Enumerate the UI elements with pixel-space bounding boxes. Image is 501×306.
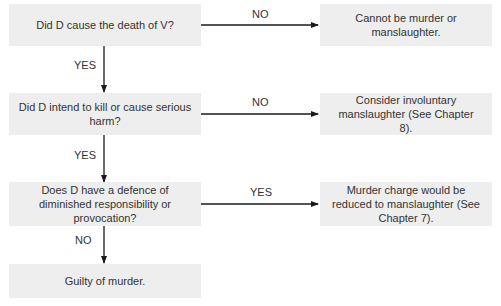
question-box-defence: Does D have a defence of diminished resp… xyxy=(9,182,201,226)
outcome-text: Guilty of murder. xyxy=(65,274,146,288)
outcome-text: Consider involuntary manslaughter (See C… xyxy=(332,93,480,135)
edge-label-no: NO xyxy=(252,96,269,108)
question-text: Did D cause the death of V? xyxy=(36,18,174,32)
edge-label-no: NO xyxy=(252,8,269,20)
edge-label-yes: YES xyxy=(250,186,272,198)
outcome-box-involuntary: Consider involuntary manslaughter (See C… xyxy=(320,93,492,135)
question-box-death: Did D cause the death of V? xyxy=(9,4,201,46)
outcome-text: Murder charge would be reduced to mansla… xyxy=(328,183,484,225)
question-text: Does D have a defence of diminished resp… xyxy=(31,183,179,225)
edge-label-no: NO xyxy=(75,234,92,246)
edge-label-yes: YES xyxy=(74,59,96,71)
outcome-box-not-murder: Cannot be murder or manslaughter. xyxy=(320,4,492,46)
question-box-intent: Did D intend to kill or cause serious ha… xyxy=(9,93,201,135)
outcome-box-guilty: Guilty of murder. xyxy=(9,264,201,298)
edge-label-yes: YES xyxy=(74,149,96,161)
outcome-text: Cannot be murder or manslaughter. xyxy=(326,11,486,39)
question-text: Did D intend to kill or cause serious ha… xyxy=(15,100,195,128)
outcome-box-reduced: Murder charge would be reduced to mansla… xyxy=(320,182,492,226)
